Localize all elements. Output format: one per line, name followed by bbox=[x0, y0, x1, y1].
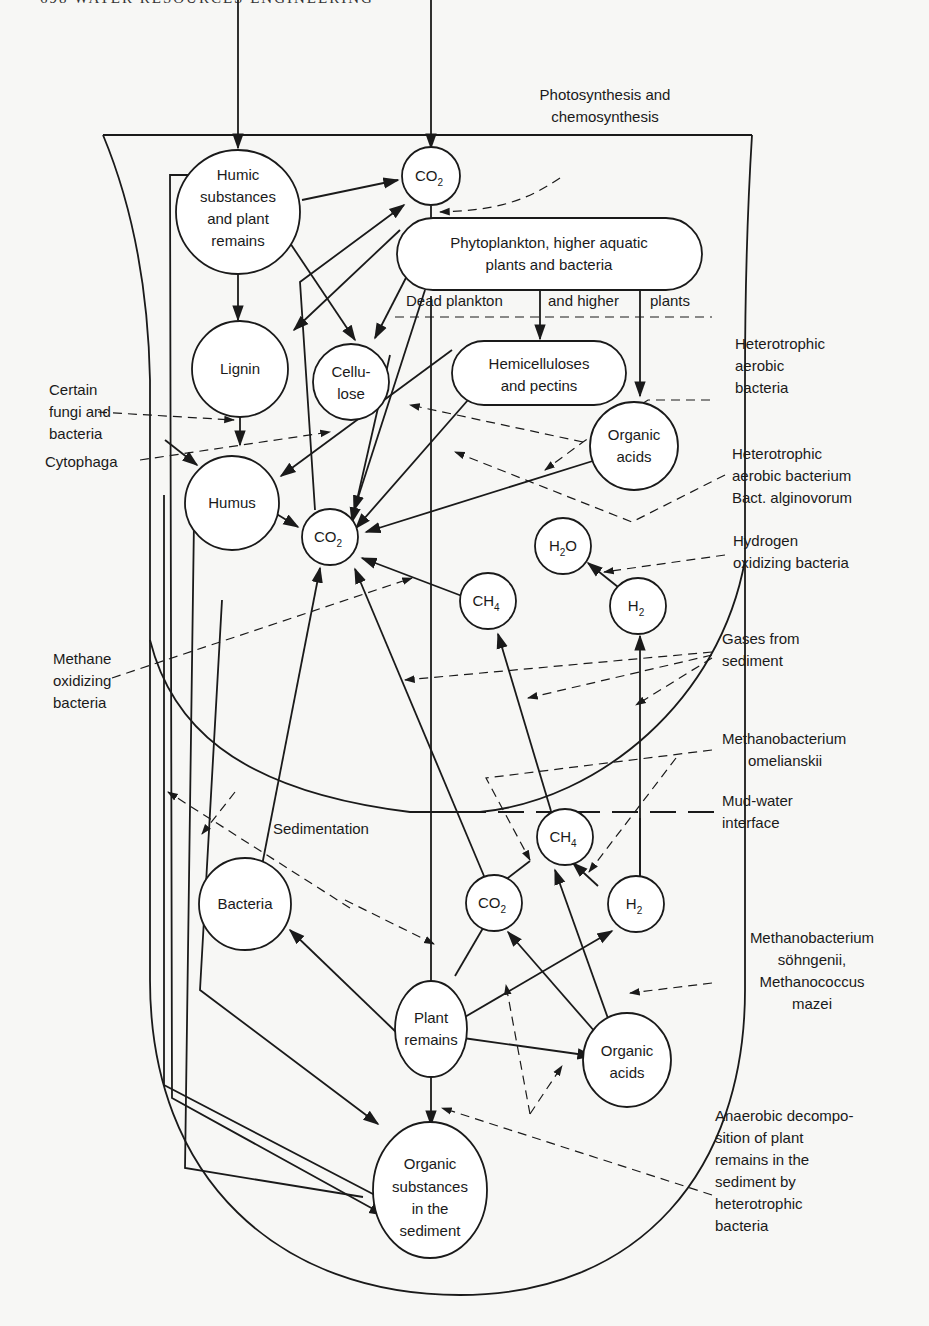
node-co2-sediment: CO2 bbox=[466, 875, 522, 931]
svg-text:sition of plant: sition of plant bbox=[715, 1129, 804, 1146]
svg-text:oxidizing: oxidizing bbox=[53, 672, 111, 689]
svg-text:heterotrophic: heterotrophic bbox=[715, 1195, 803, 1212]
svg-text:bacteria: bacteria bbox=[53, 694, 107, 711]
svg-text:and higher: and higher bbox=[548, 292, 619, 309]
svg-text:oxidizing bacteria: oxidizing bacteria bbox=[733, 554, 850, 571]
svg-text:substances: substances bbox=[200, 188, 276, 205]
label-cytophaga: Cytophaga bbox=[45, 453, 118, 470]
svg-text:fungi and: fungi and bbox=[49, 403, 111, 420]
svg-text:Methane: Methane bbox=[53, 650, 111, 667]
svg-text:plants and bacteria: plants and bacteria bbox=[486, 256, 613, 273]
svg-text:Plant: Plant bbox=[414, 1009, 449, 1026]
label-mud-water-interface: Mud-water interface bbox=[722, 792, 793, 831]
svg-text:and plant: and plant bbox=[207, 210, 270, 227]
node-ch4-middle: CH4 bbox=[460, 573, 516, 629]
svg-text:bacteria: bacteria bbox=[715, 1217, 769, 1234]
svg-text:Methanobacterium: Methanobacterium bbox=[750, 929, 874, 946]
svg-text:remains in the: remains in the bbox=[715, 1151, 809, 1168]
svg-text:Heterotrophic: Heterotrophic bbox=[735, 335, 826, 352]
label-heterotrophic-alginovorum: Heterotrophic aerobic bacterium Bact. al… bbox=[732, 445, 852, 506]
node-h2o: H2O bbox=[535, 518, 591, 574]
label-photosynthesis: Photosynthesis and chemosynthesis bbox=[540, 86, 671, 125]
node-co2-center: CO2 bbox=[302, 509, 358, 565]
label-hydrogen-oxidizing: Hydrogen oxidizing bacteria bbox=[733, 532, 850, 571]
svg-text:Gases from: Gases from bbox=[722, 630, 800, 647]
svg-text:chemosynthesis: chemosynthesis bbox=[551, 108, 659, 125]
svg-text:and pectins: and pectins bbox=[501, 377, 578, 394]
svg-text:remains: remains bbox=[404, 1031, 457, 1048]
node-organic-acids-sediment: Organic acids bbox=[583, 1013, 671, 1107]
dead-plankton-label: Dead plankton and higher plants bbox=[406, 292, 690, 309]
node-h2-middle: H2 bbox=[610, 578, 666, 634]
node-phytoplankton: Phytoplankton, higher aquatic plants and… bbox=[397, 218, 702, 290]
label-omelianskii: Methanobacterium omelianskii bbox=[722, 730, 846, 769]
node-bacteria: Bacteria bbox=[199, 858, 291, 950]
svg-text:Organic: Organic bbox=[608, 426, 661, 443]
node-co2-top: CO2 bbox=[402, 147, 460, 205]
svg-text:Dead plankton: Dead plankton bbox=[406, 292, 503, 309]
svg-text:Hemicelluloses: Hemicelluloses bbox=[489, 355, 590, 372]
lake-container-outline bbox=[103, 135, 752, 1295]
svg-text:Mud-water: Mud-water bbox=[722, 792, 793, 809]
label-certain-fungi: Certain fungi and bacteria bbox=[49, 381, 111, 442]
node-cellulose: Cellu- lose bbox=[313, 344, 389, 420]
label-heterotrophic-aerobic-bacteria: Heterotrophic aerobic bacteria bbox=[735, 335, 826, 396]
svg-text:Humus: Humus bbox=[208, 494, 256, 511]
label-anaerobic-decomposition: Anaerobic decompo- sition of plant remai… bbox=[715, 1107, 853, 1234]
svg-text:sediment: sediment bbox=[722, 652, 784, 669]
svg-text:interface: interface bbox=[722, 814, 780, 831]
node-hemicelluloses: Hemicelluloses and pectins bbox=[452, 341, 626, 405]
svg-text:mazei: mazei bbox=[792, 995, 832, 1012]
label-sohngenii: Methanobacterium söhngenii, Methanococcu… bbox=[750, 929, 874, 1012]
node-humus: Humus bbox=[185, 456, 279, 550]
svg-text:omelianskii: omelianskii bbox=[748, 752, 822, 769]
svg-text:acids: acids bbox=[609, 1064, 644, 1081]
svg-text:aerobic bacterium: aerobic bacterium bbox=[732, 467, 851, 484]
node-organic-substances-sediment: Organic substances in the sediment bbox=[373, 1122, 487, 1258]
svg-text:Bact. alginovorum: Bact. alginovorum bbox=[732, 489, 852, 506]
node-organic-acids-top: Organic acids bbox=[590, 402, 678, 490]
svg-text:Humic: Humic bbox=[217, 166, 260, 183]
node-lignin: Lignin bbox=[192, 321, 288, 417]
svg-text:remains: remains bbox=[211, 232, 264, 249]
svg-text:Methanococcus: Methanococcus bbox=[759, 973, 864, 990]
label-sedimentation: Sedimentation bbox=[273, 820, 369, 837]
svg-text:Methanobacterium: Methanobacterium bbox=[722, 730, 846, 747]
node-plant-remains: Plant remains bbox=[395, 981, 467, 1077]
svg-text:söhngenii,: söhngenii, bbox=[778, 951, 846, 968]
svg-text:Lignin: Lignin bbox=[220, 360, 260, 377]
svg-text:aerobic: aerobic bbox=[735, 357, 785, 374]
svg-text:Cellu-: Cellu- bbox=[331, 363, 370, 380]
svg-text:Certain: Certain bbox=[49, 381, 97, 398]
svg-text:sediment by: sediment by bbox=[715, 1173, 796, 1190]
svg-text:Hydrogen: Hydrogen bbox=[733, 532, 798, 549]
label-methane-oxidizing: Methane oxidizing bacteria bbox=[53, 650, 111, 711]
svg-text:plants: plants bbox=[650, 292, 690, 309]
svg-text:Organic: Organic bbox=[404, 1155, 457, 1172]
lake-carbon-cycle-diagram: Humic substances and plant remains CO2 P… bbox=[0, 0, 929, 1326]
label-gases-from-sediment: Gases from sediment bbox=[722, 630, 800, 669]
node-h2-sediment: H2 bbox=[608, 876, 664, 932]
svg-text:bacteria: bacteria bbox=[49, 425, 103, 442]
svg-text:lose: lose bbox=[337, 385, 365, 402]
svg-text:in the: in the bbox=[412, 1200, 449, 1217]
node-ch4-sediment: CH4 bbox=[537, 809, 593, 865]
svg-text:Phytoplankton, higher aquatic: Phytoplankton, higher aquatic bbox=[450, 234, 648, 251]
svg-text:acids: acids bbox=[616, 448, 651, 465]
svg-text:Heterotrophic: Heterotrophic bbox=[732, 445, 823, 462]
svg-text:Anaerobic decompo-: Anaerobic decompo- bbox=[715, 1107, 853, 1124]
svg-text:Organic: Organic bbox=[601, 1042, 654, 1059]
node-humic-substances: Humic substances and plant remains bbox=[176, 150, 300, 274]
svg-text:Photosynthesis and: Photosynthesis and bbox=[540, 86, 671, 103]
svg-text:substances: substances bbox=[392, 1178, 468, 1195]
svg-text:sediment: sediment bbox=[400, 1222, 462, 1239]
svg-text:Bacteria: Bacteria bbox=[217, 895, 273, 912]
svg-text:bacteria: bacteria bbox=[735, 379, 789, 396]
